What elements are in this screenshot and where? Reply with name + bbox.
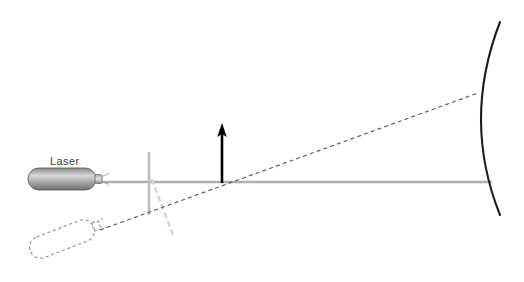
laser-emission-fan-upper	[102, 174, 109, 177]
ghost-laser-nozzle	[91, 220, 101, 231]
concave-mirror-arc	[481, 22, 500, 215]
ghost-laser-outline	[26, 217, 97, 262]
laser-aperture-nozzle	[95, 175, 102, 184]
ghost-laser-body	[26, 212, 109, 261]
laser-housing	[28, 168, 96, 190]
optics-diagram-canvas: Laser	[0, 0, 524, 282]
laser-label: Laser	[50, 155, 80, 167]
ghost-laser-emission-upper	[98, 218, 104, 222]
optics-diagram: Laser	[0, 0, 524, 282]
tilt-direction-arrow	[217, 123, 227, 183]
diagonal-dashed-beam	[100, 93, 478, 230]
laser-source-body	[28, 168, 109, 190]
